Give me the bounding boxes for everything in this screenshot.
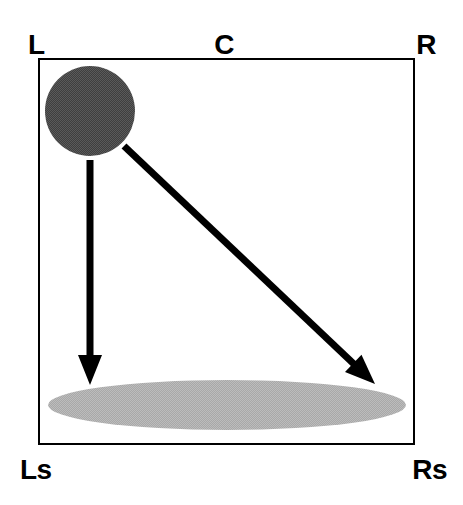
- channel-label-l: L: [28, 29, 45, 60]
- target-ellipse: [48, 380, 406, 430]
- channel-label-c: C: [214, 29, 234, 60]
- channel-label-ls: Ls: [20, 454, 52, 485]
- channel-label-rs: Rs: [412, 454, 447, 485]
- channel-label-r: R: [416, 29, 436, 60]
- source-circle: [45, 66, 135, 156]
- figure-container: L C R Ls Rs: [0, 0, 463, 505]
- panning-diagram-svg: L C R Ls Rs: [0, 0, 463, 505]
